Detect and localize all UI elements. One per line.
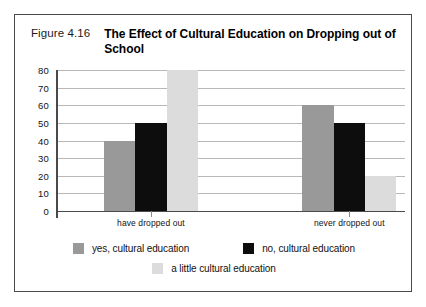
y-axis-tick-60: 60 xyxy=(29,100,49,111)
y-axis-tick-0: 0 xyxy=(29,206,49,217)
x-axis-baseline xyxy=(57,211,405,212)
y-axis-tick-50: 50 xyxy=(29,117,49,128)
figure-caption: Figure 4.16 The Effect of Cultural Educa… xyxy=(31,27,397,56)
figure-frame: Figure 4.16 The Effect of Cultural Educa… xyxy=(14,14,412,292)
legend-row-secondary: a little cultural education xyxy=(15,263,413,274)
y-axis-tick-labels: 80706050403020100 xyxy=(23,70,49,211)
figure-number: Figure 4.16 xyxy=(31,27,90,39)
legend-swatch-icon xyxy=(73,243,84,254)
bar-never-dropped-out-no-cultural-education xyxy=(334,123,365,211)
legend-label: no, cultural education xyxy=(262,243,355,254)
legend-item-a-little-cultural-education: a little cultural education xyxy=(152,263,276,274)
bar-never-dropped-out-yes-cultural-education xyxy=(302,105,333,211)
bar-have-dropped-out-no-cultural-education xyxy=(135,123,166,211)
y-axis-tick-20: 20 xyxy=(29,170,49,181)
legend-label: a little cultural education xyxy=(171,263,276,274)
x-axis-label-have-dropped-out: have dropped out xyxy=(117,218,185,228)
bar-have-dropped-out-yes-cultural-education xyxy=(104,141,135,212)
chart-bars: have dropped outnever dropped out xyxy=(57,70,405,211)
x-axis-tick-mark-1 xyxy=(349,211,350,217)
legend-swatch-icon xyxy=(152,263,163,274)
legend-item-yes-cultural-education: yes, cultural education xyxy=(73,243,189,254)
figure-title: The Effect of Cultural Education on Drop… xyxy=(104,27,397,56)
legend-item-no-cultural-education: no, cultural education xyxy=(243,243,355,254)
x-axis-label-never-dropped-out: never dropped out xyxy=(314,218,385,228)
legend-row-primary: yes, cultural educationno, cultural educ… xyxy=(15,243,413,254)
legend-label: yes, cultural education xyxy=(92,243,189,254)
y-axis-tick-10: 10 xyxy=(29,188,49,199)
y-axis-tick-40: 40 xyxy=(29,135,49,146)
legend-swatch-icon xyxy=(243,243,254,254)
y-axis-tick-80: 80 xyxy=(29,65,49,76)
chart-plot-area: 80706050403020100 have dropped outnever … xyxy=(15,70,413,230)
bar-have-dropped-out-a-little-cultural-education xyxy=(167,70,198,211)
chart-legend: yes, cultural educationno, cultural educ… xyxy=(15,243,413,274)
x-axis-tick-mark-0 xyxy=(151,211,152,217)
y-axis-tick-70: 70 xyxy=(29,82,49,93)
bar-never-dropped-out-a-little-cultural-education xyxy=(365,176,396,211)
y-axis-tick-30: 30 xyxy=(29,153,49,164)
